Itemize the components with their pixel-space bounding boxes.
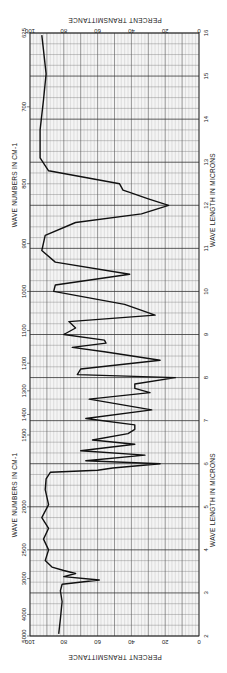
- wavenumber-tick-label: 800: [21, 178, 27, 189]
- transmittance-tick-label: 20: [161, 639, 168, 645]
- wavenumber-tick-label: 700: [21, 101, 27, 112]
- bottom-transmittance-ticks: 100806040200: [24, 639, 200, 645]
- wavenumber-tick-label: 1500: [21, 428, 27, 442]
- micron-tick-label: 3: [203, 591, 209, 595]
- wavenumber-tick-label: 4000: [21, 607, 27, 621]
- right-x-axis-title-upper: WAVE LENGTH IN MICRONS: [209, 153, 216, 247]
- micron-tick-label: 9: [203, 332, 209, 336]
- micron-tick-label: 14: [203, 115, 209, 122]
- transmittance-tick-label: 0: [197, 639, 201, 645]
- transmittance-tick-label: 80: [60, 28, 67, 34]
- micron-tick-label: 4: [203, 548, 209, 552]
- transmittance-tick-label: 80: [60, 639, 67, 645]
- micron-tick-label: 15: [203, 72, 209, 79]
- wavenumber-tick-label: 1100: [21, 323, 27, 337]
- micron-tick-label: 2: [203, 634, 209, 638]
- transmittance-tick-label: 60: [94, 639, 101, 645]
- micron-tick-label: 8: [203, 375, 209, 379]
- micron-tick-label: 7: [203, 418, 209, 422]
- wavenumber-tick-label: 625: [21, 27, 27, 38]
- wavenumber-tick-labels: 5000400030002500200015001400130012001100…: [21, 27, 30, 642]
- wavenumber-tick-label: 1300: [21, 383, 27, 397]
- wavenumber-tick-label: 2000: [21, 499, 27, 513]
- wavenumber-tick-label: 900: [21, 238, 27, 249]
- right-x-axis-title-lower: WAVE LENGTH IN MICRONS: [209, 453, 216, 547]
- wavenumber-tick-label: 1200: [21, 356, 27, 370]
- wavenumber-tick-label: 1400: [21, 407, 27, 421]
- wavenumber-tick-label: 5000: [21, 629, 27, 643]
- left-x-axis-title-lower: WAVE NUMBERS IN CM-1: [11, 453, 18, 538]
- left-x-axis-title-upper: WAVE NUMBERS IN CM-1: [11, 143, 18, 228]
- bottom-y-axis-title: PERCENT TRANSMITTANCE: [68, 654, 162, 661]
- wavenumber-tick-label: 2500: [21, 543, 27, 557]
- micron-tick-label: 16: [203, 29, 209, 36]
- top-y-axis-title: PERCENT TRANSMITTANCE: [68, 17, 162, 24]
- transmittance-tick-label: 40: [127, 28, 134, 34]
- ir-spectrum-chart: 100806040200 100806040200 23456789101112…: [0, 0, 227, 673]
- transmittance-tick-label: 60: [94, 28, 101, 34]
- micron-tick-label: 10: [203, 287, 209, 294]
- wavenumber-tick-label: 3000: [21, 571, 27, 585]
- wavenumber-tick-label: 1000: [21, 284, 27, 298]
- transmittance-tick-label: 20: [161, 28, 168, 34]
- transmittance-tick-label: 40: [127, 639, 134, 645]
